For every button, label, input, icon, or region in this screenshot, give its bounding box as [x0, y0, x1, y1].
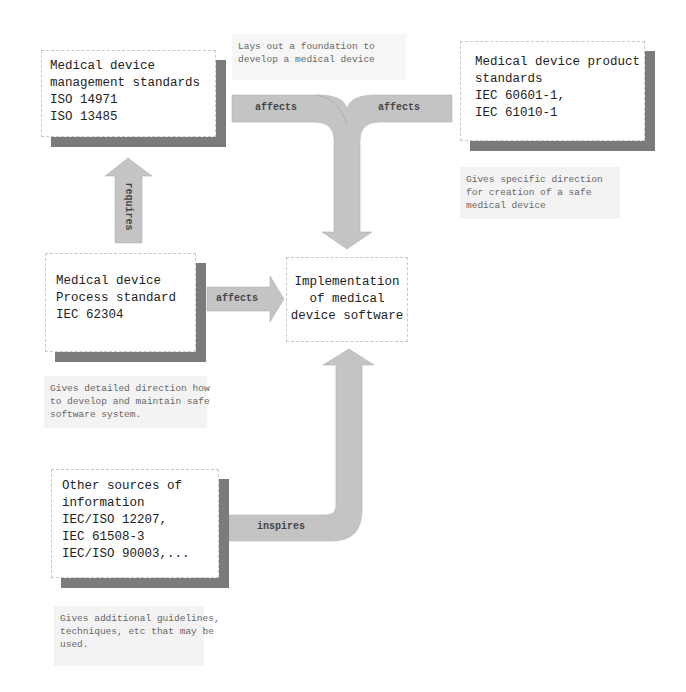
inspires-arrow [229, 349, 374, 541]
note-line: Gives additional guidelines, [60, 612, 198, 625]
inspires-label: inspires [257, 521, 305, 532]
box-line: IEC 62304 [56, 307, 185, 324]
box-line: IEC/ISO 12207, [62, 512, 208, 529]
note-line: medical device [466, 199, 614, 212]
box-line: IEC 60601-1, [475, 88, 630, 105]
box-line: Medical device product [475, 54, 630, 71]
requires-label: requires [123, 182, 134, 230]
note-line: Gives detailed direction how [50, 382, 201, 395]
note-line: Lays out a foundation to [238, 40, 400, 53]
note-line: for creation of a safe [466, 186, 614, 199]
note-line: software system. [50, 408, 201, 421]
box-line: information [62, 495, 208, 512]
affects-process-label: affects [216, 293, 258, 304]
box-line: Implementation [287, 274, 407, 291]
box-line: Other sources of [62, 478, 208, 495]
other-note: Gives additional guidelines, techniques,… [54, 606, 204, 666]
foundation-note: Lays out a foundation to develop a medic… [232, 34, 406, 80]
box-line: ISO 13485 [50, 109, 207, 126]
box-line: management standards [50, 75, 207, 92]
note-line: to develop and maintain safe [50, 395, 201, 408]
box-line: IEC/ISO 90003,... [62, 546, 208, 563]
box-line: of medical [287, 291, 407, 308]
box-line: ISO 14971 [50, 92, 207, 109]
product-standards-box: Medical device product standards IEC 606… [460, 41, 645, 141]
note-line: develop a medical device [238, 53, 400, 66]
box-line: Medical device [50, 58, 207, 75]
note-line: Gives specific direction [466, 173, 614, 186]
box-line: IEC 61508-3 [62, 529, 208, 546]
process-note: Gives detailed direction how to develop … [44, 376, 207, 428]
affects-left-label: affects [255, 102, 297, 113]
other-sources-box: Other sources of information IEC/ISO 122… [51, 469, 219, 578]
implementation-box: Implementation of medical device softwar… [286, 257, 408, 342]
box-line: Process standard [56, 290, 185, 307]
box-line: standards [475, 71, 630, 88]
box-line: device software [287, 308, 407, 325]
process-standard-box: Medical device Process standard IEC 6230… [45, 253, 196, 352]
note-line: used. [60, 638, 198, 651]
affects-right-label: affects [378, 102, 420, 113]
box-line: Medical device [56, 273, 185, 290]
management-standards-box: Medical device management standards ISO … [41, 50, 216, 137]
note-line: techniques, etc that may be [60, 625, 198, 638]
product-note: Gives specific direction for creation of… [460, 167, 620, 219]
affects-t-arrow [232, 95, 452, 249]
box-line: IEC 61010-1 [475, 105, 630, 122]
